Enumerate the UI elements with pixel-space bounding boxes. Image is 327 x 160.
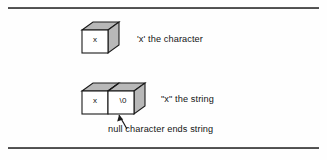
char-caption: 'x' the character <box>137 34 203 44</box>
diagram-artwork: .front { fill: #ffffff; stroke: #1a1a1a;… <box>0 0 327 160</box>
figure-container: .front { fill: #ffffff; stroke: #1a1a1a;… <box>0 0 327 160</box>
char-cell-value: x <box>85 35 105 44</box>
string-cell-value-0: x <box>85 96 105 105</box>
null-callout-label: null character ends string <box>108 124 213 134</box>
string-caption: "x" the string <box>161 94 214 104</box>
string-cell-value-1: \0 <box>112 96 134 105</box>
